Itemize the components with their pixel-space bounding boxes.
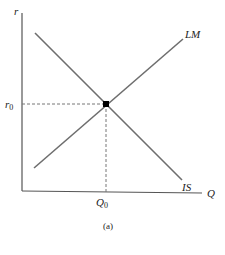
lm-label: LM xyxy=(184,28,201,40)
equilibrium-point xyxy=(103,101,109,107)
figure-caption: (a) xyxy=(103,221,113,231)
is-lm-diagram: r Q r0 Q0 LM IS (a) xyxy=(0,0,225,255)
r0-label: r0 xyxy=(5,98,13,112)
x-axis-label: Q xyxy=(207,187,215,199)
q0-label: Q0 xyxy=(96,196,108,210)
is-label: IS xyxy=(181,181,192,193)
y-axis-label: r xyxy=(14,5,19,17)
x-axis xyxy=(22,191,202,193)
